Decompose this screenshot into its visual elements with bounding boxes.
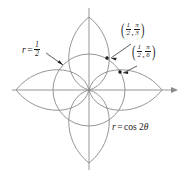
- rose-equation-function: cos: [124, 122, 137, 132]
- left-paren-1: (: [121, 24, 124, 36]
- right-paren-1: ): [141, 24, 144, 36]
- point-1-theta-fraction: π3: [134, 22, 140, 37]
- polar-rose-figure: r=12 r=cos 2θ (12,π3) (12,π6): [0, 0, 188, 176]
- polar-plot-canvas: [0, 0, 188, 176]
- rose-equation-angle: θ: [144, 122, 149, 132]
- point-label-pi-over-6: (12,π6): [131, 44, 156, 59]
- circle-equation-operator: =: [26, 45, 34, 55]
- x-axis-arrowhead: [171, 87, 178, 93]
- circle-equation-label: r=12: [22, 41, 40, 58]
- leader-arrowhead-circle: [58, 60, 63, 65]
- leader-arrowhead-point-1: [111, 58, 117, 61]
- axes-group: [12, 8, 178, 170]
- ordered-pair-1: (12,π3): [120, 22, 145, 37]
- circle-equation-fraction: 12: [34, 41, 40, 58]
- point-2-theta-denominator: 6: [145, 52, 151, 59]
- point-2-r-denominator: 2: [137, 52, 142, 59]
- point-label-pi-over-3: (12,π3): [120, 22, 145, 37]
- right-paren-2: ): [152, 46, 155, 58]
- marked-point-pi-over-3: [105, 56, 108, 59]
- point-1-theta-denominator: 3: [134, 30, 140, 37]
- point-2-theta-fraction: π6: [145, 44, 151, 59]
- point-1-r-denominator: 2: [126, 30, 131, 37]
- rose-equation-operator: =: [116, 122, 124, 132]
- circle-equation-denominator: 2: [34, 50, 40, 58]
- point-1-r-fraction: 12: [126, 22, 131, 37]
- leader-line-point-1: [111, 44, 131, 58]
- rose-equation-label: r=cos 2θ: [112, 123, 149, 133]
- ordered-pair-2: (12,π6): [131, 44, 156, 59]
- point-2-r-fraction: 12: [137, 44, 142, 59]
- left-paren-2: (: [132, 46, 135, 58]
- marked-point-pi-over-6: [118, 70, 121, 73]
